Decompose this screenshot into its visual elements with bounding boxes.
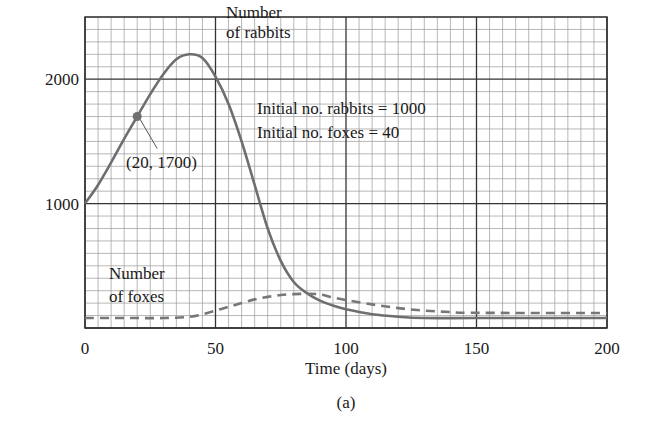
foxes-label-line1: Number: [109, 264, 165, 283]
initial-foxes-text: Initial no. foxes = 40: [257, 123, 399, 142]
point-label: (20, 1700): [126, 153, 197, 172]
x-axis-title: Time (days): [305, 359, 387, 378]
x-axis-ticks: 050100150200: [81, 339, 620, 358]
x-tick-label: 200: [594, 339, 620, 358]
x-tick-label: 0: [81, 339, 90, 358]
x-tick-label: 150: [464, 339, 490, 358]
rabbits-label-line1: Number: [226, 3, 282, 22]
x-tick-label: 50: [207, 339, 224, 358]
y-axis-ticks: 10002000: [45, 70, 79, 213]
figure-caption: (a): [337, 393, 356, 412]
rabbits-label-line2: of rabbits: [226, 23, 291, 42]
y-tick-label: 2000: [45, 70, 79, 89]
foxes-label-line2: of foxes: [109, 287, 164, 306]
y-tick-label: 1000: [45, 195, 79, 214]
point-leader-line: [140, 120, 157, 149]
initial-rabbits-text: Initial no. rabbits = 1000: [257, 99, 426, 118]
x-tick-label: 100: [333, 339, 359, 358]
population-chart: 050100150200 10002000 Number of rabbits …: [0, 0, 652, 436]
